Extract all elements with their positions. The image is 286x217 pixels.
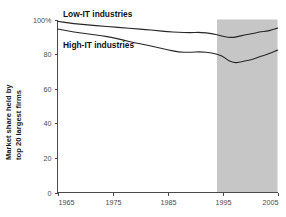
shaded-region: [217, 20, 278, 193]
x-tick-label: 1995: [216, 198, 232, 207]
y-axis-title-line1: Market share held by: [4, 84, 13, 160]
chart-container: 020406080100% 19651975198519952005 Marke…: [0, 0, 286, 217]
x-tick-label: 1965: [59, 198, 75, 207]
y-tick-label: 80: [44, 50, 52, 59]
market-share-line-chart: 020406080100% 19651975198519952005 Marke…: [0, 0, 286, 217]
x-axis-ticks: 19651975198519952005: [59, 193, 279, 207]
series-label-high-it: High-IT industries: [63, 40, 135, 50]
x-tick-label: 1975: [106, 198, 122, 207]
y-axis-title: Market share held by top 20 largest firm…: [4, 84, 23, 160]
y-tick-label: 60: [44, 85, 52, 94]
y-tick-label: 0: [48, 189, 52, 198]
y-axis-ticks: 020406080100%: [33, 16, 57, 198]
series-label-low-it: Low-IT industries: [63, 9, 133, 19]
x-tick-label: 2005: [263, 198, 279, 207]
y-tick-label: 20: [44, 154, 52, 163]
y-tick-label: 40: [44, 119, 52, 128]
y-tick-label: 100%: [33, 16, 52, 25]
x-tick-label: 1985: [161, 198, 177, 207]
y-axis-title-line2: top 20 largest firms: [14, 90, 23, 160]
